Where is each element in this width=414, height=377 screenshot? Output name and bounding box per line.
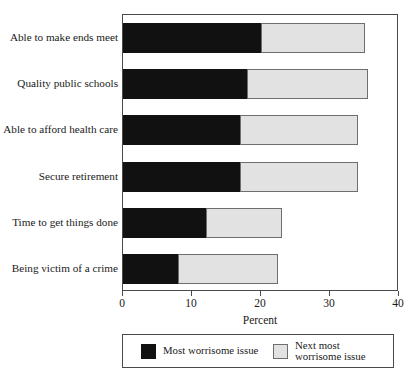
legend-swatch-icon bbox=[141, 344, 156, 359]
bar-row bbox=[123, 23, 365, 53]
legend-entry: Next most worrisome issue bbox=[273, 335, 365, 367]
x-tick-label: 0 bbox=[102, 297, 142, 309]
legend: Most worrisome issue Next most worrisome… bbox=[122, 334, 394, 368]
legend-swatch-icon bbox=[273, 344, 288, 359]
legend-label: Most worrisome issue bbox=[163, 345, 258, 357]
bar-segment-primary bbox=[123, 208, 206, 238]
x-tick-label: 30 bbox=[309, 297, 349, 309]
bar-segment-primary bbox=[123, 69, 247, 99]
bar-segment-primary bbox=[123, 162, 240, 192]
stacked-bar-chart: Able to make ends meet Quality public sc… bbox=[0, 0, 414, 377]
bar-row bbox=[123, 162, 358, 192]
legend-entry: Most worrisome issue bbox=[141, 335, 258, 367]
x-tick bbox=[122, 291, 123, 296]
x-tick bbox=[260, 291, 261, 296]
bar-segment-primary bbox=[123, 254, 178, 284]
legend-label: Next most worrisome issue bbox=[295, 340, 365, 363]
bar-row bbox=[123, 208, 282, 238]
bar-row bbox=[123, 254, 278, 284]
bar-segment-primary bbox=[123, 115, 240, 145]
bar-segment-secondary bbox=[247, 69, 368, 99]
plot-area bbox=[122, 14, 398, 291]
bar-row bbox=[123, 69, 368, 99]
x-tick bbox=[191, 291, 192, 296]
bar-segment-secondary bbox=[261, 23, 365, 53]
bar-segment-secondary bbox=[240, 162, 357, 192]
bar-segment-secondary bbox=[240, 115, 357, 145]
category-label-0: Able to make ends meet bbox=[0, 31, 118, 43]
x-tick-label: 10 bbox=[171, 297, 211, 309]
category-label-4: Time to get things done bbox=[0, 216, 118, 228]
category-label-5: Being victim of a crime bbox=[0, 262, 118, 274]
category-label-2: Able to afford health care bbox=[0, 123, 118, 135]
category-label-1: Quality public schools bbox=[0, 77, 118, 89]
bar-segment-primary bbox=[123, 23, 261, 53]
bar-segment-secondary bbox=[206, 208, 282, 238]
x-tick-label: 40 bbox=[378, 297, 414, 309]
x-tick bbox=[329, 291, 330, 296]
x-axis-title: Percent bbox=[122, 314, 398, 326]
bar-row bbox=[123, 115, 358, 145]
category-label-3: Secure retirement bbox=[0, 170, 118, 182]
bar-segment-secondary bbox=[178, 254, 278, 284]
x-tick-label: 20 bbox=[240, 297, 280, 309]
x-tick bbox=[398, 291, 399, 296]
